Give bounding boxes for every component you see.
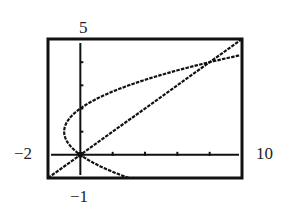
- parabola-curve: [64, 55, 240, 178]
- graph-canvas: [0, 0, 282, 217]
- ymax-label: 5: [79, 19, 88, 36]
- line-y-equals-half-x: [48, 39, 242, 178]
- xmin-label: −2: [14, 145, 32, 162]
- origin-intersection-point: [77, 152, 83, 158]
- curves: [48, 39, 242, 178]
- ymin-label: −1: [70, 188, 88, 205]
- xmax-label: 10: [256, 145, 273, 162]
